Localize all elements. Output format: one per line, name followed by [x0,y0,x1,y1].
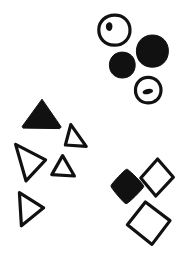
drawing-canvas [0,0,190,256]
outlined-triangle-right-large [16,144,46,180]
outlined-diamond-upper [141,159,174,196]
filled-circle-large [136,35,168,67]
outlined-diamond-lower [127,202,170,244]
outlined-triangle-up-small [52,156,75,176]
diamond-cluster [111,159,173,244]
filled-diamond [111,169,144,203]
filled-circle-small [109,52,135,78]
circle-outline [99,15,130,45]
outlined-triangle-right-small [19,193,43,226]
triangle-cluster [16,99,87,226]
outlined-circle-with-dot [99,15,130,45]
circle-inner-blob-icon [106,22,113,31]
filled-triangle-up [22,99,61,128]
outlined-triangle-up-right [65,125,86,147]
shape-illustration [0,0,190,256]
circle-cluster [99,15,169,103]
outlined-circle-with-dash [135,77,161,103]
